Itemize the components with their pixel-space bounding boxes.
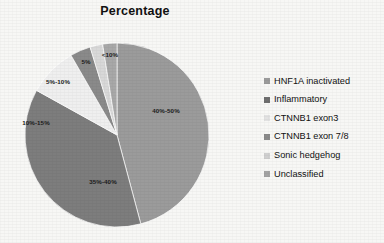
slice-value-label: 35%-40% [89, 178, 117, 185]
slice-value-label: 5%-10% [46, 78, 70, 85]
pie-slice-group [25, 43, 209, 227]
slice-value-label: 10%-15% [22, 119, 50, 126]
legend-swatch-icon [264, 78, 270, 84]
legend-swatch-icon [264, 115, 270, 121]
legend-item-label: CTNNB1 exon 7/8 [274, 132, 349, 141]
legend-item-label: CTNNB1 exon3 [274, 114, 338, 123]
slice-value-label: 5% [81, 58, 90, 65]
legend-item-label: Inflammatory [274, 95, 327, 104]
slice-value-label: 40%-50% [152, 107, 180, 114]
legend-item-label: HNF1A inactivated [274, 77, 350, 86]
legend-swatch-icon [264, 171, 270, 177]
legend-swatch-icon [264, 97, 270, 103]
legend-item-label: Sonic hedgehog [274, 151, 340, 160]
legend-item[interactable]: HNF1A inactivated [264, 72, 384, 91]
legend-swatch-icon [264, 153, 270, 159]
pie-chart-figure: Percentage 40%-50%35%-40%10%-15%5%-10%5%… [0, 0, 384, 243]
legend-item[interactable]: Inflammatory [264, 91, 384, 110]
legend-item-label: Unclassified [274, 170, 324, 179]
legend-item[interactable]: CTNNB1 exon3 [264, 109, 384, 128]
slice-value-label: <10% [102, 51, 118, 58]
legend-item[interactable]: CTNNB1 exon 7/8 [264, 128, 384, 147]
chart-legend: HNF1A inactivatedInflammatoryCTNNB1 exon… [264, 72, 384, 184]
pie-plot-area: 40%-50%35%-40%10%-15%5%-10%5%<10% [0, 0, 250, 243]
legend-item[interactable]: Sonic hedgehog [264, 146, 384, 165]
legend-item[interactable]: Unclassified [264, 165, 384, 184]
legend-swatch-icon [264, 134, 270, 140]
